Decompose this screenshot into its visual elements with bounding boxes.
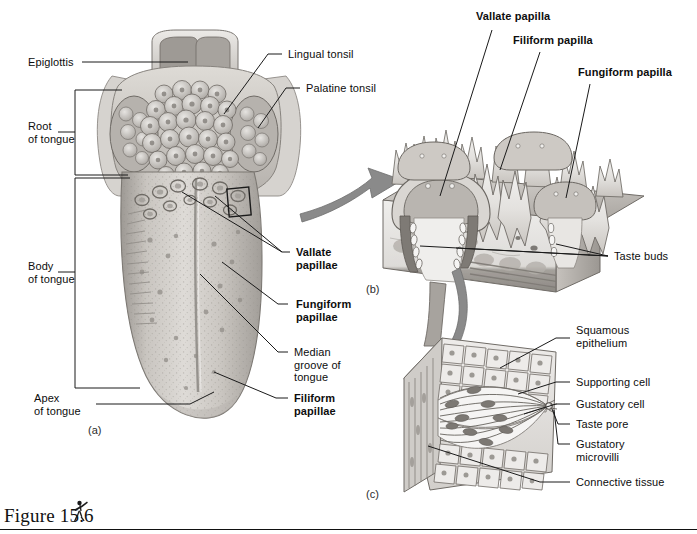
lingual-tonsil-mass bbox=[141, 81, 239, 184]
label-taste-pore: Taste pore bbox=[576, 418, 628, 431]
taste-bud-illustration bbox=[404, 338, 557, 492]
label-vallate-papillae: Vallate papillae bbox=[296, 246, 338, 271]
label-gustatory-microvilli: Gustatory microvilli bbox=[576, 438, 625, 463]
panel-label-a: (a) bbox=[88, 424, 101, 436]
label-fungiform-papilla: Fungiform papilla bbox=[578, 66, 672, 79]
label-body-of-tongue: Body of tongue bbox=[28, 260, 75, 285]
label-supporting-cell: Supporting cell bbox=[576, 376, 650, 389]
label-epiglottis: Epiglottis bbox=[28, 56, 74, 69]
panel-label-b: (b) bbox=[366, 283, 379, 295]
label-filiform-papillae: Filiform papillae bbox=[294, 392, 336, 417]
tongue-illustration bbox=[97, 30, 300, 440]
human-figure-icon bbox=[70, 499, 90, 523]
label-taste-buds: Taste buds bbox=[614, 250, 668, 263]
vallate-papilla-background-2 bbox=[494, 132, 572, 170]
label-fungiform-papillae: Fungiform papillae bbox=[296, 298, 351, 323]
panel-label-c: (c) bbox=[366, 488, 379, 500]
label-root-of-tongue: Root of tongue bbox=[28, 120, 75, 145]
label-apex-of-tongue: Apex of tongue bbox=[34, 392, 81, 417]
label-vallate-papilla: Vallate papilla bbox=[476, 10, 550, 23]
papillae-block-illustration bbox=[383, 130, 646, 346]
bottom-divider bbox=[0, 529, 697, 530]
vallate-papilla-background bbox=[398, 142, 470, 180]
label-filiform-papilla: Filiform papilla bbox=[513, 34, 593, 47]
label-squamous-epithelium: Squamous epithelium bbox=[576, 324, 629, 349]
label-gustatory-cell: Gustatory cell bbox=[576, 398, 645, 411]
label-palatine-tonsil: Palatine tonsil bbox=[306, 82, 376, 95]
label-lingual-tonsil: Lingual tonsil bbox=[288, 48, 354, 61]
label-median-groove-of-tongue: Median groove of tongue bbox=[294, 346, 341, 384]
figure-root: Epiglottis Root of tongue Body of tongue… bbox=[0, 0, 697, 534]
label-connective-tissue: Connective tissue bbox=[576, 476, 665, 489]
